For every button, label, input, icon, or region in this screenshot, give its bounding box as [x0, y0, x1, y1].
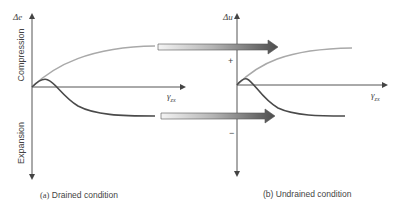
expansion-to-negative-arrow [161, 109, 275, 123]
panel-b-negative-sign: − [229, 128, 234, 138]
panel-b-x-axis-label: γzx [371, 90, 380, 102]
panel-b-axes [237, 16, 385, 174]
panel-a-x-axis-label: γzx [167, 91, 176, 103]
panel-a-caption: (a) Drained condition [40, 190, 118, 200]
panel-a-y-axis-label: Δe [13, 12, 22, 22]
panel-b-dark-curve [237, 79, 345, 116]
panel-a-expansion-label: Expansion [16, 118, 26, 168]
panel-a-axes [32, 16, 183, 177]
panel-a-compression-label: Compression [16, 27, 26, 83]
panel-b-light-curve [237, 48, 352, 85]
diagram-canvas [0, 0, 400, 209]
panel-b-y-axis-label: Δu [223, 12, 233, 22]
panel-b-positive-sign: + [228, 56, 233, 66]
panel-b-caption: (b) Undrained condition [263, 189, 351, 199]
panel-a-dark-curve [32, 79, 155, 116]
compression-to-positive-arrow [158, 40, 278, 54]
